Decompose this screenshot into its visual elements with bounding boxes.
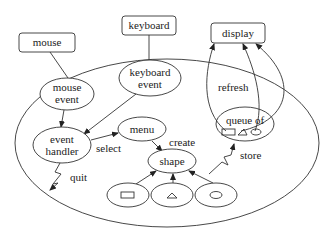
- circle-shape-node: [195, 183, 237, 207]
- queue-label: queue of: [226, 114, 265, 126]
- quit-label: quit: [70, 171, 87, 183]
- event-handler-node: event handler: [33, 127, 91, 163]
- edge-mouse-to-mouse-event: [50, 52, 68, 78]
- store-label: store: [240, 149, 262, 161]
- event-handler-line2: handler: [46, 145, 79, 157]
- edge-create: [152, 141, 162, 151]
- refresh-label: refresh: [218, 81, 249, 93]
- edge-circle-to-shape: [189, 171, 213, 183]
- edge-rect-to-shape: [136, 171, 156, 184]
- mouse-box: mouse: [19, 33, 75, 52]
- queue-node: queue of: [216, 107, 274, 141]
- edge-select: [91, 133, 118, 140]
- menu-node: menu: [118, 117, 166, 141]
- mouse-event-line2: event: [55, 93, 79, 105]
- create-label: create: [169, 136, 195, 148]
- triangle-shape-node: [151, 183, 193, 207]
- mouse-box-label: mouse: [33, 36, 62, 48]
- shape-label: shape: [159, 155, 184, 167]
- display-box-label: display: [222, 27, 254, 39]
- diagram-canvas: mouse keyboard display refresh mouse eve…: [0, 0, 322, 232]
- mouse-event-line1: mouse: [53, 81, 82, 93]
- rectangle-shape-node: [107, 183, 149, 207]
- menu-label: menu: [130, 123, 155, 135]
- mouse-event-node: mouse event: [40, 78, 94, 110]
- edge-quit: [50, 163, 61, 190]
- edge-store: [209, 144, 234, 174]
- edge-mouse-event-to-handler: [61, 110, 64, 127]
- keyboard-event-line1: keyboard: [130, 66, 171, 78]
- keyboard-box-label: keyboard: [129, 19, 170, 31]
- shape-node: shape: [148, 149, 196, 173]
- keyboard-event-node: keyboard event: [119, 60, 181, 96]
- keyboard-event-line2: event: [138, 78, 162, 90]
- display-box: display: [211, 23, 265, 43]
- select-label: select: [96, 142, 121, 154]
- event-handler-line1: event: [50, 133, 74, 145]
- keyboard-box: keyboard: [122, 16, 176, 35]
